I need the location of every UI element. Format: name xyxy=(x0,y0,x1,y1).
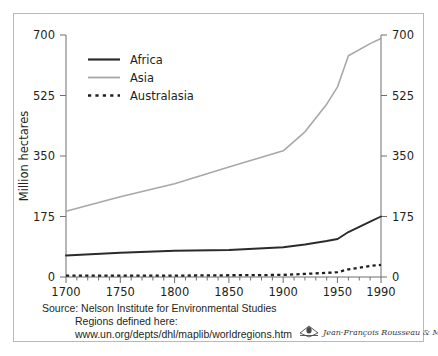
series-line-australasia xyxy=(66,265,381,276)
credit-label: Jean-François Rousseau & Marc Girard xyxy=(321,328,438,337)
chart-figure: 700 525 350 175 0 700 525 350 175 0 xyxy=(0,0,438,356)
x-tick-label-1700: 1700 xyxy=(51,285,80,299)
y-tick-label-left-350: 350 xyxy=(33,149,55,163)
source-line-3: www.un.org/depts/dhl/maplib/worldregions… xyxy=(74,328,292,340)
y-ticks-left: 700 525 350 175 0 xyxy=(33,28,66,284)
author-credit: Jean-François Rousseau & Marc Girard xyxy=(300,326,438,337)
y-ticks-right: 700 525 350 175 0 xyxy=(381,28,414,284)
legend: Africa Asia Australasia xyxy=(88,53,194,103)
pen-logo-icon xyxy=(300,326,318,337)
axes-group xyxy=(66,35,381,277)
y-tick-label-right-350: 350 xyxy=(392,149,414,163)
y-axis-title: Million hectares xyxy=(17,111,31,201)
legend-label-africa: Africa xyxy=(130,53,163,67)
source-note: Source: Nelson Institute for Environment… xyxy=(42,302,292,340)
y-tick-label-left-700: 700 xyxy=(33,28,55,42)
line-chart: 700 525 350 175 0 700 525 350 175 0 xyxy=(0,0,438,356)
x-ticks: 1700 1750 1800 1850 1900 1950 1990 xyxy=(51,277,395,299)
x-tick-label-1800: 1800 xyxy=(160,285,189,299)
y-tick-label-left-525: 525 xyxy=(33,89,55,103)
source-line-1: Source: Nelson Institute for Environment… xyxy=(42,302,277,314)
x-tick-label-1990: 1990 xyxy=(366,285,395,299)
y-tick-label-right-525: 525 xyxy=(392,89,414,103)
y-tick-label-right-0: 0 xyxy=(392,270,399,284)
x-tick-label-1850: 1850 xyxy=(214,285,243,299)
y-tick-label-right-175: 175 xyxy=(392,210,414,224)
legend-label-australasia: Australasia xyxy=(130,89,194,103)
y-tick-label-left-175: 175 xyxy=(33,210,55,224)
x-tick-label-1750: 1750 xyxy=(106,285,135,299)
y-tick-label-left-0: 0 xyxy=(48,270,55,284)
x-tick-label-1900: 1900 xyxy=(269,285,298,299)
series-line-asia xyxy=(66,38,381,211)
y-tick-label-right-700: 700 xyxy=(392,28,414,42)
source-line-2: Regions defined here: xyxy=(75,315,178,327)
legend-label-asia: Asia xyxy=(130,71,154,85)
series-line-africa xyxy=(66,217,381,256)
x-tick-label-1950: 1950 xyxy=(323,285,352,299)
data-series-group xyxy=(66,38,381,275)
